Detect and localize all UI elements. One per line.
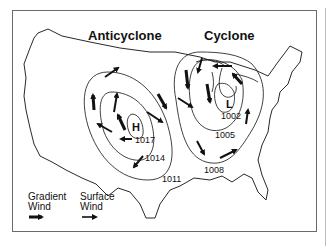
weather-map: Anticyclone Cyclone H L 1017 1014 1011 1… [0,0,330,246]
anticyclone-title: Anticyclone [88,28,162,43]
legend-surface-wind-label-2: Wind [80,201,103,212]
legend-gradient-wind-label-2: Wind [28,201,51,212]
isobar-label-1005: 1005 [215,130,235,140]
isobar-label-1017: 1017 [135,135,155,145]
us-outline [24,29,302,218]
isobar-label-1008: 1008 [204,165,224,175]
isobar-1011-high [84,72,172,180]
isobar-1014 [100,92,154,160]
isobar-label-1002: 1002 [221,111,241,121]
isobar-label-1011: 1011 [162,174,181,184]
legend: Gradient Wind Surface Wind [28,191,115,217]
high-pressure-center: H [132,121,140,133]
low-pressure-center: L [226,98,233,110]
isobar-label-1014: 1014 [145,153,165,163]
cyclone-title: Cyclone [204,28,255,43]
